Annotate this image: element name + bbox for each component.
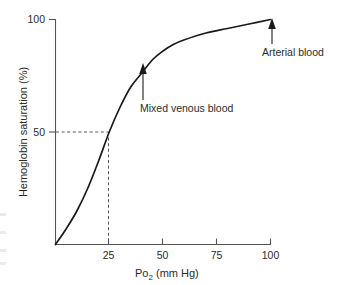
y-tick-label-50: 50: [33, 126, 45, 138]
x-axis-title-main: Po: [135, 267, 148, 279]
mixed-venous-blood-label: Mixed venous blood: [140, 102, 234, 114]
x-tick-label-25: 25: [103, 249, 115, 261]
y-axis-title: Hemoglobin saturation (%): [17, 67, 29, 197]
scan-artifact: [0, 231, 6, 234]
x-tick-label-75: 75: [211, 249, 223, 261]
oxyhemoglobin-dissociation-chart: 100 50 25 50 75 100 Mixed venous blood A…: [0, 0, 342, 285]
scan-artifact: [0, 213, 6, 216]
scan-artifact: [0, 249, 6, 252]
y-tick-label-100: 100: [27, 13, 45, 25]
arterial-blood-label: Arterial blood: [262, 46, 324, 58]
chart-background: [0, 0, 342, 285]
x-axis-title-tail: (mm Hg): [153, 267, 199, 279]
x-tick-label-50: 50: [157, 249, 169, 261]
scan-artifact: [0, 262, 6, 265]
x-tick-label-100: 100: [262, 249, 280, 261]
